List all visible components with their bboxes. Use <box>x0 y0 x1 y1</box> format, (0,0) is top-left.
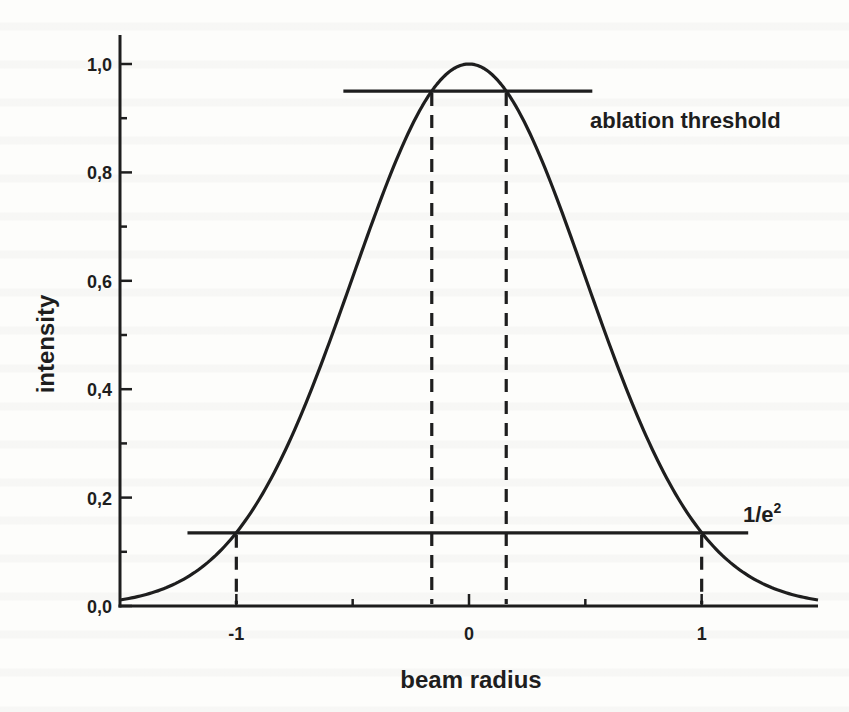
y-tick-label: 0,8 <box>87 163 112 183</box>
gaussian-curve <box>120 64 818 600</box>
axis-ticks: 0,00,20,40,60,81,0-101 <box>87 55 707 644</box>
inverse-e-squared-exponent: 2 <box>774 500 782 516</box>
annotation-lines <box>187 91 748 604</box>
y-tick-label: 1,0 <box>87 55 112 75</box>
y-axis-label: intensity <box>32 294 59 393</box>
x-axis-label: beam radius <box>400 666 541 693</box>
y-tick-label: 0,4 <box>87 380 112 400</box>
x-tick-label: 1 <box>697 624 707 644</box>
inverse-e-squared-label: 1/e2 <box>743 500 782 527</box>
inverse-e-squared-base: 1/e <box>743 502 774 527</box>
y-tick-label: 0,6 <box>87 272 112 292</box>
y-tick-label: 0,0 <box>87 597 112 617</box>
ablation-threshold-label: ablation threshold <box>590 108 781 133</box>
x-tick-label: 0 <box>464 624 474 644</box>
x-tick-label: -1 <box>228 624 244 644</box>
gaussian-beam-chart: 0,00,20,40,60,81,0-101 intensity beam ra… <box>0 0 849 712</box>
y-tick-label: 0,2 <box>87 489 112 509</box>
